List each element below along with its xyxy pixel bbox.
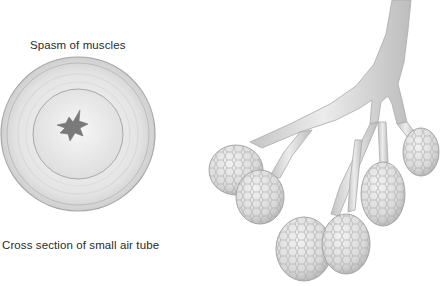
alveolar-cluster-f xyxy=(322,214,370,274)
alveolar-clusters xyxy=(209,128,439,281)
alveolar-cluster-d xyxy=(361,162,405,226)
alveolar-cluster-b xyxy=(236,170,284,224)
spasm-of-muscles-label: Spasm of muscles xyxy=(30,39,126,51)
cross-section-diagram xyxy=(1,57,155,211)
cross-section-label: Cross section of small air tube xyxy=(2,239,159,251)
alveolar-cluster-c xyxy=(403,128,439,176)
